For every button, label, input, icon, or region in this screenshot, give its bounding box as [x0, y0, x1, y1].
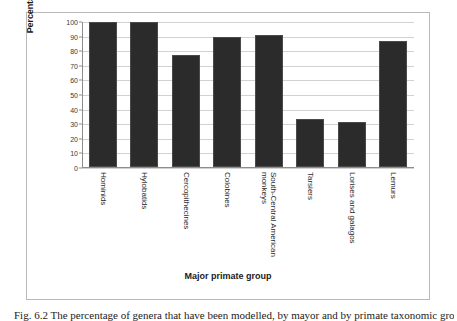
x-label-slot: Hylobatids	[124, 170, 166, 280]
x-label-slot: Lorises and galagos	[331, 170, 373, 280]
x-axis-tick-label-line: Colobines	[223, 172, 232, 208]
x-axis-tick-label-line: Lorises and galagos	[347, 172, 356, 244]
bar[interactable]	[213, 37, 241, 168]
y-axis-tick-label: 80	[70, 48, 78, 55]
y-axis-tick-label: 40	[70, 106, 78, 113]
plot-inner: 1009080706050403020100	[82, 22, 414, 168]
y-axis-tick-label: 20	[70, 135, 78, 142]
y-axis-tick-label: 0	[74, 165, 78, 172]
bar[interactable]	[338, 122, 366, 167]
x-label-slot: Tarsiers	[290, 170, 332, 280]
x-axis-tick-label-line: Hylobatids	[140, 172, 149, 209]
bar[interactable]	[130, 22, 158, 167]
y-axis-tick-label: 100	[66, 19, 78, 26]
bar-slot	[124, 22, 166, 167]
x-axis-tick-label: Hylobatids	[140, 172, 149, 209]
figure-caption: Fig. 6.2 The percentage of genera that h…	[14, 309, 454, 321]
x-axis-tick-label-line: Cercopithecines	[181, 172, 190, 229]
x-axis-tick-label: Colobines	[223, 172, 232, 208]
bar-slot	[207, 22, 249, 167]
bar-slot	[290, 22, 332, 167]
x-axis-tick-label: Hominids	[98, 172, 107, 205]
y-axis-tick-label: 50	[70, 92, 78, 99]
plot-area: 1009080706050403020100	[82, 22, 414, 168]
x-axis-tick-label-line: Tarsiers	[306, 172, 315, 200]
x-axis-tick-label-line: Lemurs	[389, 172, 398, 199]
y-axis-title: Percentage of genera modelled	[25, 0, 35, 43]
bar-slot	[248, 22, 290, 167]
bar[interactable]	[255, 35, 283, 167]
y-axis-tick-label: 10	[70, 150, 78, 157]
bar-slot	[373, 22, 415, 167]
bar-series	[82, 22, 414, 167]
bar[interactable]	[379, 41, 407, 167]
bar-slot	[82, 22, 124, 167]
x-label-slot: Colobines	[207, 170, 249, 280]
x-axis-tick-labels: HominidsHylobatidsCercopithecinesColobin…	[82, 170, 414, 280]
x-axis-title: Major primate group	[27, 271, 429, 281]
y-axis-tick-label: 90	[70, 33, 78, 40]
gridline	[82, 168, 414, 169]
bar[interactable]	[89, 22, 117, 167]
x-label-slot: Cercopithecines	[165, 170, 207, 280]
x-label-slot: Lemurs	[373, 170, 415, 280]
x-axis-tick-label: Lorises and galagos	[347, 172, 356, 244]
y-axis-tick-label: 30	[70, 121, 78, 128]
bar-slot	[165, 22, 207, 167]
x-label-slot: Hominids	[82, 170, 124, 280]
x-label-slot: South-Central Americanmonkeys	[248, 170, 290, 280]
chart-figure-box: Percentage of genera modelled 1009080706…	[26, 12, 430, 300]
y-axis-tick-label: 70	[70, 62, 78, 69]
x-axis-line	[82, 167, 414, 168]
x-axis-tick-label: Tarsiers	[306, 172, 315, 200]
x-axis-tick-label-line: South-Central American	[269, 172, 278, 257]
x-axis-tick-label-line: monkeys	[260, 172, 269, 257]
bar-slot	[331, 22, 373, 167]
x-axis-tick-label: Lemurs	[389, 172, 398, 199]
bar[interactable]	[296, 119, 324, 167]
bar[interactable]	[172, 55, 200, 167]
x-axis-tick-label: South-Central Americanmonkeys	[260, 172, 278, 257]
x-axis-tick-label: Cercopithecines	[181, 172, 190, 229]
x-axis-tick-label-line: Hominids	[98, 172, 107, 205]
y-axis-tick-label: 60	[70, 77, 78, 84]
